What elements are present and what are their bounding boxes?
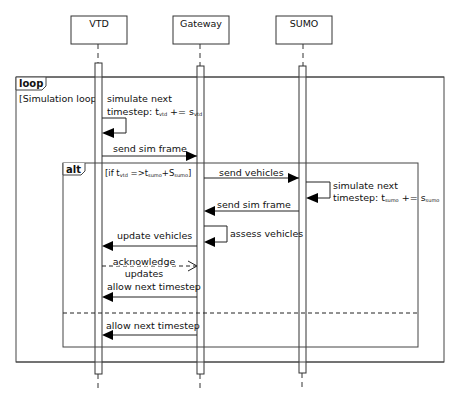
send-sim-frame-2-label: send sim frame bbox=[217, 199, 291, 210]
update-vehicles-label: update vehicles bbox=[117, 230, 192, 241]
acknowledge-label-2: updates bbox=[125, 268, 163, 279]
participant-vtd-label: VTD bbox=[89, 18, 109, 29]
arrow-head-icon bbox=[102, 128, 114, 138]
sequence-diagram: VTD Gateway SUMO loop [Simulation loop] … bbox=[0, 0, 457, 400]
activation-sumo bbox=[299, 66, 306, 373]
message-allow-next-timestep-1[interactable]: allow next timestep bbox=[102, 281, 201, 302]
message-allow-next-timestep-2[interactable]: allow next timestep bbox=[102, 320, 200, 340]
allow-next-timestep-2-label: allow next timestep bbox=[106, 320, 200, 331]
arrow-head-icon bbox=[306, 193, 318, 203]
arrow-head-icon bbox=[102, 330, 113, 340]
participant-gateway-label: Gateway bbox=[180, 18, 222, 29]
alt-guard: [if tvtd =>tsumo+Ssumo] bbox=[105, 168, 191, 178]
participant-sumo[interactable]: SUMO bbox=[276, 16, 332, 44]
loop-keyword: loop bbox=[19, 78, 43, 89]
loop-fragment: loop [Simulation loop] bbox=[16, 77, 444, 362]
vtd-simulate-label-2: timestep: tvtd += svtd bbox=[107, 106, 202, 117]
allow-next-timestep-1-label: allow next timestep bbox=[107, 281, 201, 292]
message-acknowledge-updates[interactable]: acknowledge updates bbox=[102, 256, 197, 279]
participant-sumo-label: SUMO bbox=[290, 18, 319, 29]
arrow-head-icon bbox=[288, 173, 299, 183]
message-send-vehicles[interactable]: send vehicles bbox=[204, 167, 299, 183]
message-vtd-simulate[interactable]: simulate next timestep: tvtd += svtd bbox=[102, 93, 202, 138]
acknowledge-label-1: acknowledge bbox=[113, 256, 176, 267]
assess-vehicles-label: assess vehicles bbox=[230, 228, 303, 239]
vtd-simulate-label-1: simulate next bbox=[107, 93, 172, 104]
message-send-sim-frame-2[interactable]: send sim frame bbox=[204, 199, 299, 216]
message-assess-vehicles[interactable]: assess vehicles bbox=[204, 226, 303, 247]
arrow-head-icon bbox=[102, 292, 113, 302]
participant-gateway[interactable]: Gateway bbox=[173, 16, 229, 44]
sumo-simulate-label-2: timestep: tsumo += ssumo bbox=[333, 192, 439, 203]
arrow-head-icon bbox=[204, 237, 215, 247]
sumo-simulate-label-1: simulate next bbox=[333, 180, 398, 191]
message-sumo-simulate[interactable]: simulate next timestep: tsumo += ssumo bbox=[306, 180, 439, 203]
participant-vtd[interactable]: VTD bbox=[71, 16, 127, 44]
message-send-sim-frame-1[interactable]: send sim frame bbox=[102, 143, 197, 161]
activation-vtd bbox=[95, 63, 102, 374]
arrow-head-icon bbox=[204, 206, 215, 216]
arrow-head-icon bbox=[186, 151, 197, 161]
message-update-vehicles[interactable]: update vehicles bbox=[102, 230, 197, 251]
send-vehicles-label: send vehicles bbox=[219, 167, 284, 178]
alt-keyword: alt bbox=[66, 164, 81, 175]
send-sim-frame-1-label: send sim frame bbox=[113, 143, 187, 154]
loop-guard: [Simulation loop] bbox=[19, 93, 100, 104]
arrow-head-icon bbox=[102, 241, 113, 251]
